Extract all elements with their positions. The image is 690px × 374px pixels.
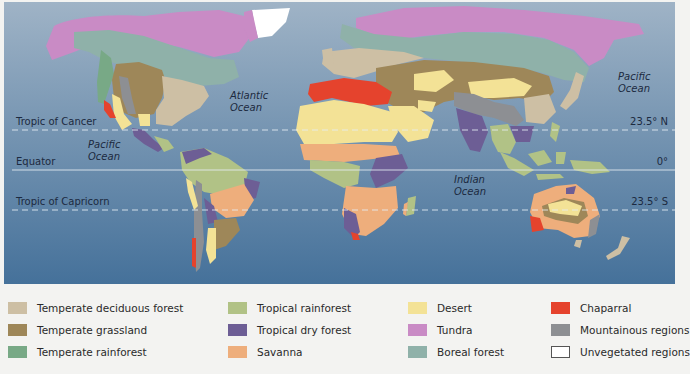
legend-swatch (408, 346, 427, 358)
legend: Temperate deciduous forest Temperate gra… (0, 286, 679, 374)
legend-label: Tropical dry forest (257, 324, 351, 336)
legend-item-chaparral: Chaparral (551, 300, 631, 316)
legend-label: Temperate rainforest (37, 346, 147, 358)
equator-degrees: 0° (657, 156, 668, 167)
legend-swatch (551, 346, 570, 358)
legend-swatch (8, 346, 27, 358)
tropic-of-capricorn-degrees: 23.5° S (631, 196, 668, 207)
indian-ocean-label-line2: Ocean (454, 186, 486, 197)
legend-item-tropical-rainforest: Tropical rainforest (228, 300, 351, 316)
pacific-ocean-label-west-line2: Ocean (618, 83, 650, 94)
legend-item-unvegetated-regions: Unvegetated regions (551, 344, 690, 360)
legend-item-temperate-deciduous-forest: Temperate deciduous forest (8, 300, 183, 316)
legend-item-mountainous-regions: Mountainous regions (551, 322, 689, 338)
legend-item-temperate-grassland: Temperate grassland (8, 322, 147, 338)
legend-swatch (8, 324, 27, 336)
legend-swatch (408, 324, 427, 336)
legend-label: Savanna (257, 346, 303, 358)
world-biome-map: Tropic of Cancer Equator Tropic of Capri… (4, 2, 675, 284)
legend-label: Tropical rainforest (257, 302, 351, 314)
legend-swatch (551, 324, 570, 336)
biome-chaparral (192, 238, 196, 268)
legend-label: Chaparral (580, 302, 631, 314)
equator-label: Equator (16, 156, 56, 167)
biome-desert (138, 114, 150, 126)
legend-label: Boreal forest (437, 346, 504, 358)
legend-label: Temperate deciduous forest (37, 302, 183, 314)
legend-swatch (551, 302, 570, 314)
legend-item-tundra: Tundra (408, 322, 473, 338)
legend-item-savanna: Savanna (228, 344, 303, 360)
legend-label: Tundra (437, 324, 473, 336)
legend-swatch (8, 302, 27, 314)
legend-item-tropical-dry-forest: Tropical dry forest (228, 322, 351, 338)
legend-label: Unvegetated regions (580, 346, 690, 358)
pacific-ocean-label-east: Pacific (88, 139, 121, 150)
legend-item-temperate-rainforest: Temperate rainforest (8, 344, 147, 360)
legend-swatch (228, 346, 247, 358)
legend-item-desert: Desert (408, 300, 472, 316)
pacific-ocean-label-east-line2: Ocean (88, 151, 120, 162)
tropic-of-capricorn-label: Tropic of Capricorn (15, 196, 110, 207)
legend-swatch (228, 302, 247, 314)
pacific-ocean-label-west: Pacific (618, 71, 651, 82)
atlantic-ocean-label-line2: Ocean (230, 102, 262, 113)
legend-swatch (228, 324, 247, 336)
legend-label: Mountainous regions (580, 324, 689, 336)
legend-label: Temperate grassland (37, 324, 147, 336)
tropic-of-cancer-label: Tropic of Cancer (15, 116, 97, 127)
legend-item-boreal-forest: Boreal forest (408, 344, 504, 360)
indian-ocean-label: Indian (454, 174, 485, 185)
legend-label: Desert (437, 302, 472, 314)
legend-swatch (408, 302, 427, 314)
tropic-of-cancer-degrees: 23.5° N (630, 116, 668, 127)
biome-temperate-deciduous-forest (322, 48, 334, 66)
atlantic-ocean-label: Atlantic (229, 90, 269, 101)
